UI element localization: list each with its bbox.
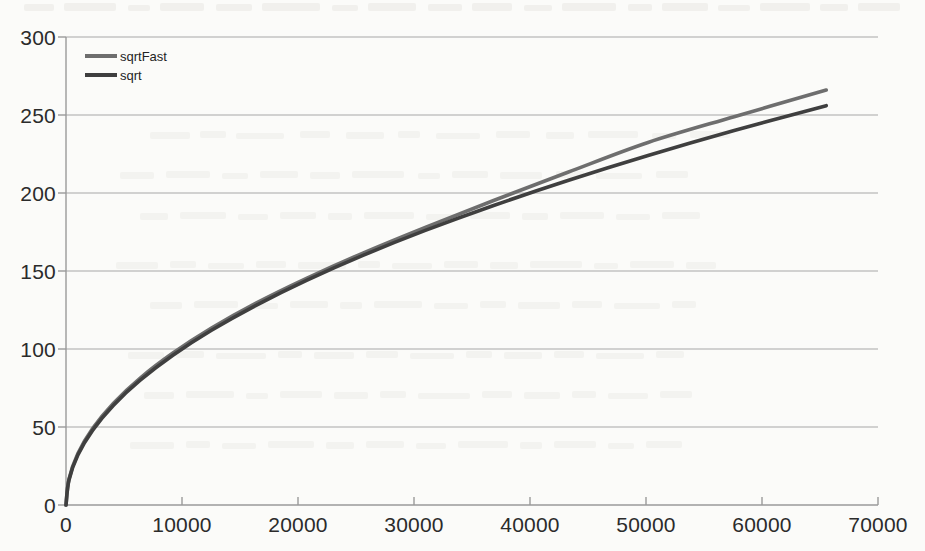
y-tick-label-300: 300 [0,26,56,50]
x-tick-label-40000: 40000 [490,513,570,537]
plot-area: sqrtFast sqrt [0,0,925,551]
series-line-sqrt [66,106,826,505]
x-tick-label-0: 0 [26,513,106,537]
y-tick-label-150: 150 [0,260,56,284]
y-tick-label-250: 250 [0,104,56,128]
x-tick-label-70000: 70000 [838,513,918,537]
legend-label-sqrt: sqrt [120,68,142,83]
y-tick-label-50: 50 [0,416,56,440]
x-tick-label-60000: 60000 [722,513,802,537]
sqrt-benchmark-chart: 300 250 200 150 100 50 0 0 10000 20000 3… [0,0,925,551]
y-tick-label-100: 100 [0,338,56,362]
y-tick-label-200: 200 [0,182,56,206]
x-axis-ticks [66,497,878,505]
series-line-sqrtfast [66,90,826,505]
legend-label-sqrtfast: sqrtFast [120,49,167,64]
chart-legend: sqrtFast sqrt [85,49,167,83]
y-axis-ticks [58,37,66,505]
x-tick-label-20000: 20000 [258,513,338,537]
x-tick-label-50000: 50000 [606,513,686,537]
gridlines [66,37,878,427]
x-tick-label-10000: 10000 [142,513,222,537]
x-tick-label-30000: 30000 [374,513,454,537]
